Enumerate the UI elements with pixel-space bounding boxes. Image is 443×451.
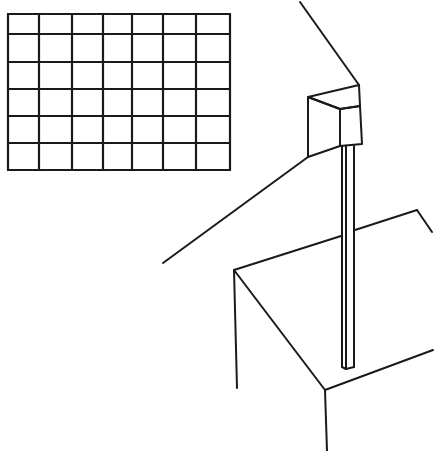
ceiling-edge-line [300, 2, 359, 85]
pole-bottom-right [346, 367, 354, 369]
box-front-face [308, 97, 340, 157]
table-corner [234, 210, 433, 451]
box-side-face [340, 106, 362, 146]
grid-panel [8, 14, 230, 170]
table-right-notch [417, 210, 432, 232]
line-drawing-canvas: Line drawing: rectangular grid panel, wa… [0, 0, 443, 451]
table-back-edge-right [355, 210, 417, 230]
table-left-leg [234, 270, 237, 388]
box-top-face [308, 85, 360, 109]
table-front-left-edge [234, 270, 325, 390]
table-back-edge [234, 236, 341, 270]
box-on-pole [163, 2, 362, 369]
cable-line [163, 157, 308, 263]
illustration-svg [0, 0, 443, 451]
table-front-leg [325, 390, 327, 451]
